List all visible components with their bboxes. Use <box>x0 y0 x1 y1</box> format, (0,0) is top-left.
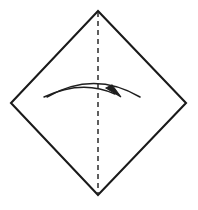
origami-diagram-root: Origami step: fold square diagonally in … <box>0 0 198 210</box>
origami-diagram-canvas <box>0 0 198 210</box>
